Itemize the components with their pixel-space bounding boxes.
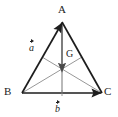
vector-arrow-overbar-a [29,38,34,43]
vertex-label-c: C [104,86,111,97]
centroid-label-g: G [66,49,73,59]
vertex-label-a: A [58,4,66,15]
median-b-to-mid-ac [22,57,82,93]
median-c-to-mid-ab [42,57,102,93]
vector-label-a: a [29,38,34,53]
geometry-figure: A B C G a b [0,0,118,117]
vertex-label-b: B [4,86,11,97]
vector-a-edge [22,23,62,93]
vector-label-b: b [55,99,60,114]
vector-arrow-overbar-b [55,99,60,104]
vector-symbol-a: a [29,43,34,53]
vector-symbol-b: b [55,104,60,114]
